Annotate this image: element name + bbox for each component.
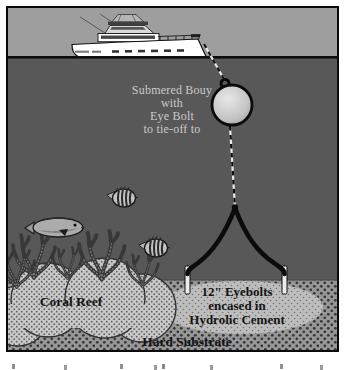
eyebolts-label: 12" Eyebolts encased in Hydrolic Cement: [167, 285, 307, 327]
boat-name-marks: [75, 51, 101, 53]
eyebolts-label-line2: encased in: [167, 299, 307, 313]
hard-substrate-label: Hard Substrate: [112, 335, 262, 349]
eyebolts-label-line3: Hydrolic Cement: [167, 313, 307, 327]
screenshot-page: Submered Bouy with Eye Bolt to tie-off t…: [0, 0, 345, 370]
buoy-label-line4: to tie-off to: [112, 123, 232, 136]
boat-hardtop: [108, 22, 148, 25]
eyebolts-label-line1: 12" Eyebolts: [167, 285, 307, 299]
submerged-buoy-label: Submered Bouy with Eye Bolt to tie-off t…: [112, 84, 232, 136]
coral-reef-label: Coral Reef: [21, 295, 121, 309]
caption-fragment: [12, 364, 15, 369]
diagram-frame: Submered Bouy with Eye Bolt to tie-off t…: [6, 6, 339, 352]
